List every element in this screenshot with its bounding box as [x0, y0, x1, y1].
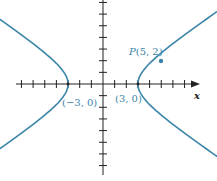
hyperbola-diagram: P(5, 2) (3, 0) (−3, 0) x: [0, 0, 217, 181]
x-axis-label: x: [193, 90, 201, 101]
point-p-label: P(5, 2): [128, 46, 163, 57]
hyperbola-left-branch: [0, 12, 68, 160]
vertex-right: [137, 83, 140, 86]
point-p: [159, 59, 163, 63]
x-axis-arrow-icon: [191, 81, 200, 88]
vertex-left-label: (−3, 0): [62, 97, 97, 108]
vertex-left: [67, 83, 70, 86]
vertex-right-label: (3, 0): [115, 93, 142, 104]
